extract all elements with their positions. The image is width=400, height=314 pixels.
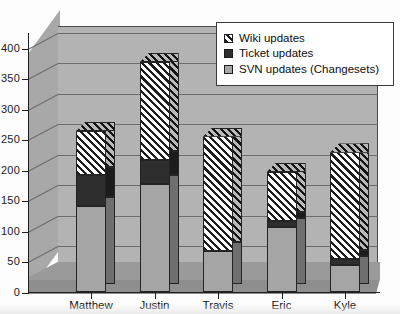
y-axis-label: 100 [0, 226, 20, 237]
y-axis-label: 400 [0, 43, 20, 54]
bar-segment[interactable] [140, 160, 170, 184]
bar-segment-side [233, 128, 242, 243]
bar-segment[interactable] [267, 172, 297, 221]
bar-segment-side [297, 212, 306, 218]
y-tick-100 [22, 232, 29, 233]
y-axis-label: 250 [0, 134, 20, 145]
y-axis-line [28, 33, 29, 293]
bar-segment[interactable] [203, 136, 233, 251]
y-tick-50 [22, 262, 29, 263]
legend-label: Ticket updates [239, 47, 313, 60]
y-tick-200 [22, 171, 29, 172]
bar-segment[interactable] [203, 251, 233, 292]
legend-item-0[interactable]: Wiki updates [224, 32, 385, 45]
x-tick-justin [155, 292, 156, 299]
bar-segment-side [360, 143, 369, 250]
x-tick-kyle [345, 292, 346, 299]
bar-segment[interactable] [330, 152, 360, 259]
bar-segment-side [170, 175, 179, 284]
y-tick-350 [22, 79, 29, 80]
bar-segment[interactable] [267, 227, 297, 293]
bar-segment-side [233, 242, 242, 283]
chart-figure: 050100150200250300350400 MatthewJustinTr… [0, 0, 400, 314]
bar-segment-side [360, 250, 369, 256]
legend-label: Wiki updates [239, 32, 305, 45]
dotted-swatch [224, 65, 233, 74]
bar-segment-side [360, 256, 369, 283]
x-tick-eric [282, 292, 283, 299]
y-tick-250 [22, 140, 29, 141]
scan-artifact [0, 304, 400, 314]
y-axis-label: 350 [0, 73, 20, 84]
bar-segment[interactable] [76, 206, 106, 293]
x-tick-travis [218, 292, 219, 299]
bar-segment-side [106, 167, 115, 198]
x-tick-matthew [91, 292, 92, 299]
bar-segment[interactable] [76, 175, 106, 206]
bar-segment[interactable] [330, 259, 360, 265]
y-tick-300 [22, 110, 29, 111]
bar-segment[interactable] [76, 131, 106, 176]
y-axis-label: 0 [0, 287, 20, 298]
legend-item-1[interactable]: Ticket updates [224, 47, 385, 60]
diagonal-hatch-swatch [224, 34, 233, 43]
bar-segment-side [170, 151, 179, 175]
y-tick-150 [22, 201, 29, 202]
y-axis-label: 200 [0, 165, 20, 176]
legend-label: SVN updates (Changesets) [239, 63, 379, 76]
y-axis-label: 150 [0, 195, 20, 206]
gridline-300 [58, 94, 378, 95]
bar-segment-side [297, 218, 306, 284]
x-axis-line [28, 292, 380, 293]
bar-segment[interactable] [330, 265, 360, 292]
solid-dark-swatch [224, 49, 233, 58]
bar-segment[interactable] [140, 184, 170, 293]
chart-left-wall [28, 10, 60, 293]
y-tick-400 [22, 49, 29, 50]
legend-item-2[interactable]: SVN updates (Changesets) [224, 63, 385, 76]
bar-segment-side [106, 197, 115, 284]
y-axis-label: 300 [0, 104, 20, 115]
y-axis-label: 50 [0, 256, 20, 267]
chart-legend[interactable]: Wiki updatesTicket updatesSVN updates (C… [216, 22, 394, 86]
bar-segment[interactable] [267, 221, 297, 227]
bar-segment-side [170, 53, 179, 151]
bar-segment[interactable] [140, 62, 170, 160]
